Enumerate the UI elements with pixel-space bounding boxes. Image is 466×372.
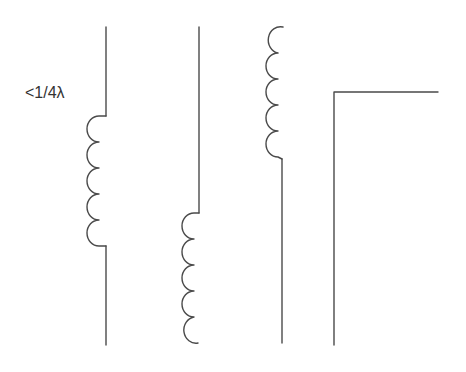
antenna-top-loaded — [266, 27, 283, 343]
loading-coil-icon — [87, 116, 106, 246]
antenna-base-loaded — [182, 27, 199, 343]
antenna-center-loaded — [87, 27, 106, 345]
diagram-canvas: <1/4λ — [0, 0, 466, 372]
loading-coil-icon — [182, 213, 199, 343]
antenna-inverted-l — [334, 92, 438, 345]
loading-coil-icon — [266, 27, 283, 159]
quarter-wavelength-label: <1/4λ — [25, 83, 65, 103]
